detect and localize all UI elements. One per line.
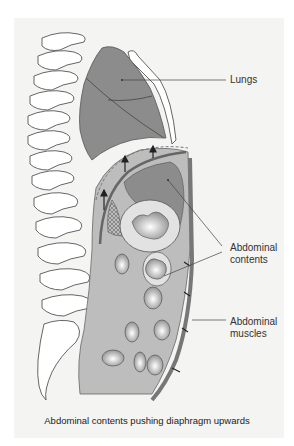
label-abdominal-contents: Abdominal contents [230,242,277,266]
label-abdominal-muscles: Abdominal muscles [230,316,277,340]
anatomy-illustration [0,0,294,446]
label-lungs: Lungs [230,74,257,86]
figure-caption: Abdominal contents pushing diaphragm upw… [0,415,294,426]
lungs-shape [80,47,167,160]
